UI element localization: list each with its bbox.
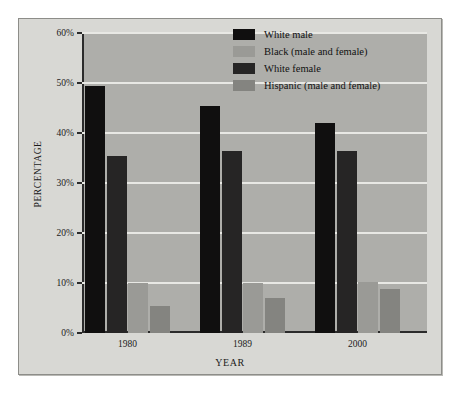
- y-tick-label: 40%: [28, 128, 82, 138]
- bar: [222, 151, 242, 334]
- y-tick-label: 60%: [28, 28, 82, 38]
- legend-item[interactable]: Hispanic (male and female): [233, 78, 380, 93]
- legend-item-label: Hispanic (male and female): [264, 80, 380, 91]
- bar: [200, 106, 220, 334]
- bar: [315, 123, 335, 333]
- x-tick-label: 2000: [348, 339, 367, 349]
- bar: [150, 306, 170, 334]
- legend-swatch-icon: [233, 29, 255, 40]
- bar: [337, 151, 357, 334]
- legend-item-label: Black (male and female): [264, 46, 368, 57]
- legend-swatch-icon: [233, 80, 255, 91]
- legend-item[interactable]: White male: [233, 27, 380, 42]
- bar: [128, 283, 148, 333]
- y-tick-label: 50%: [28, 78, 82, 88]
- bar: [85, 86, 105, 334]
- x-tick-label: 1989: [233, 339, 252, 349]
- legend-item-label: White female: [264, 63, 321, 74]
- chart-figure: PERCENTAGE 0%10%20%30%40%50%60% 19801989…: [18, 18, 442, 375]
- x-axis-label: YEAR: [19, 357, 441, 368]
- bar: [107, 156, 127, 334]
- legend-item-label: White male: [264, 29, 313, 40]
- gridline: [82, 132, 427, 134]
- bar: [358, 282, 378, 334]
- legend-swatch-icon: [233, 63, 255, 74]
- y-tick-label: 20%: [28, 228, 82, 238]
- legend-swatch-icon: [233, 46, 255, 57]
- gridline: [82, 232, 427, 234]
- gridline: [82, 182, 427, 184]
- legend-item[interactable]: Black (male and female): [233, 44, 380, 59]
- bar: [243, 283, 263, 333]
- legend-item[interactable]: White female: [233, 61, 380, 76]
- y-tick-label: 10%: [28, 278, 82, 288]
- bar: [265, 298, 285, 333]
- bar: [380, 289, 400, 333]
- y-tick-label: 0%: [28, 328, 82, 338]
- y-tick-label: 30%: [28, 178, 82, 188]
- chart-legend: White maleBlack (male and female)White f…: [233, 27, 380, 93]
- x-tick-label: 1980: [118, 339, 137, 349]
